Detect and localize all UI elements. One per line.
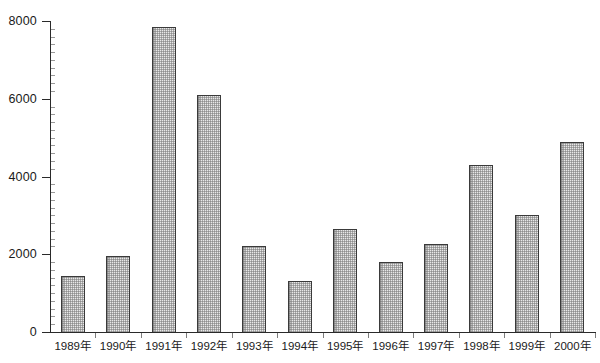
bar (242, 246, 266, 332)
x-tick (595, 333, 596, 338)
y-tick-label: 2000 (8, 248, 37, 261)
x-tick-label: 2000年 (550, 341, 595, 353)
bar (152, 27, 176, 332)
bar (379, 262, 403, 332)
x-tick (504, 333, 505, 338)
x-tick (277, 333, 278, 338)
bar (469, 165, 493, 332)
y-tick-label: 0 (30, 326, 37, 339)
x-tick (550, 333, 551, 338)
x-tick-label: 1995年 (323, 341, 368, 353)
x-tick-label: 1989年 (50, 341, 95, 353)
bar (333, 229, 357, 332)
x-tick-label: 1996年 (368, 341, 413, 353)
x-tick-label: 1990年 (95, 341, 140, 353)
x-tick-label: 1997年 (413, 341, 458, 353)
y-tick-0 (42, 332, 50, 333)
y-tick-label: 8000 (8, 15, 37, 28)
x-tick-label: 1998年 (459, 341, 504, 353)
bar-chart: 02000400060008000 1989年1990年1991年1992年19… (0, 0, 600, 363)
y-tick-2000 (42, 254, 50, 255)
x-tick-label: 1993年 (232, 341, 277, 353)
bar (106, 256, 130, 332)
x-tick (186, 333, 187, 338)
x-tick-label: 1999年 (504, 341, 549, 353)
x-tick (323, 333, 324, 338)
bar (560, 142, 584, 332)
x-tick-label: 1991年 (141, 341, 186, 353)
x-tick (459, 333, 460, 338)
x-tick-label: 1992年 (186, 341, 231, 353)
y-tick-label: 6000 (8, 93, 37, 106)
y-tick-8000 (42, 21, 50, 22)
y-tick-4000 (42, 177, 50, 178)
bar (288, 281, 312, 332)
y-tick-6000 (42, 99, 50, 100)
y-tick-label: 4000 (8, 171, 37, 184)
bar-series (50, 21, 595, 332)
x-tick (368, 333, 369, 338)
bar (424, 244, 448, 332)
x-tick (141, 333, 142, 338)
bar (515, 215, 539, 332)
x-tick (95, 333, 96, 338)
x-tick (413, 333, 414, 338)
x-tick-label: 1994年 (277, 341, 322, 353)
bar (197, 95, 221, 332)
bar (61, 276, 85, 332)
x-tick (232, 333, 233, 338)
